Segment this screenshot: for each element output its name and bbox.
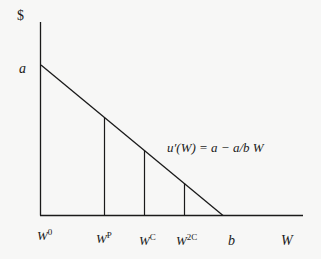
diagram-canvas: $ a u′(W) = a − a/b W W0 WP WC W2C b W xyxy=(0,0,321,259)
curve-equation: u′(W) = a − a/b W xyxy=(167,141,264,154)
tick-label-wp: WP xyxy=(96,232,112,245)
tick-base: W xyxy=(139,233,150,248)
tick-sup: 2C xyxy=(187,232,198,242)
tick-base: W xyxy=(176,233,187,248)
tick-base: W xyxy=(96,231,107,246)
x-axis-label: W xyxy=(281,234,293,248)
y-intercept-label: a xyxy=(19,62,26,76)
tick-label-w2c: W2C xyxy=(176,234,197,247)
tick-sup: P xyxy=(107,230,112,240)
tick-sup: C xyxy=(150,232,156,242)
tick-label-w0: W0 xyxy=(37,229,52,242)
tick-sup: 0 xyxy=(48,227,53,237)
tick-base: W xyxy=(37,228,48,243)
x-intercept-label: b xyxy=(228,234,235,248)
tick-label-wc: WC xyxy=(139,234,156,247)
y-axis-label: $ xyxy=(17,9,24,23)
diagram-lines xyxy=(0,0,321,259)
